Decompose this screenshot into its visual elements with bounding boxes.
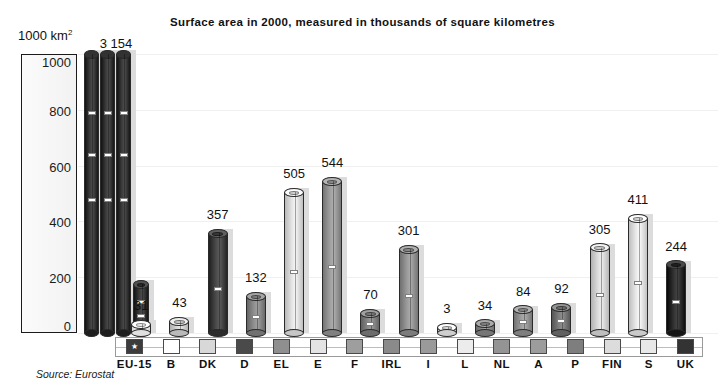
bar-highlight (677, 265, 678, 333)
value-label-EL: 132 (237, 270, 275, 285)
bar-group-E[interactable] (275, 54, 313, 333)
bar-cylinder (208, 233, 228, 333)
bar-A[interactable] (513, 310, 533, 333)
legend-item-EU-15[interactable]: ★EU-15 (116, 337, 153, 354)
y-axis-tick-1000: 1000 (42, 55, 71, 70)
bar-marker (120, 111, 128, 115)
bar-group-F[interactable] (313, 54, 351, 333)
bar-group-EL[interactable] (237, 54, 275, 333)
bar-group-DK[interactable] (160, 54, 198, 333)
bar-cylinder (437, 327, 457, 333)
legend-swatch-A (530, 339, 547, 354)
bar-base-ellipse (360, 329, 380, 337)
legend-item-FIN[interactable]: FIN (594, 337, 631, 354)
bar-marker (214, 287, 222, 291)
bar-L[interactable] (437, 327, 457, 333)
bar-I[interactable] (399, 249, 419, 333)
bar-top-ellipse-inner (403, 248, 413, 252)
bar-cylinder (551, 307, 571, 333)
bar-cylinder (246, 296, 266, 333)
bar-DK[interactable] (169, 321, 189, 333)
value-label-D: 357 (199, 207, 237, 222)
bar-top-ellipse-inner (327, 180, 337, 184)
bar-group-L[interactable] (428, 54, 466, 333)
bar-marker (88, 153, 96, 157)
bar-UK[interactable] (666, 265, 686, 333)
chart-root: Surface area in 2000, measured in thousa… (0, 0, 725, 387)
legend-swatch-D (236, 339, 253, 354)
legend-item-F[interactable]: F (337, 337, 374, 354)
value-label-FIN: 305 (581, 222, 619, 237)
legend-item-DK[interactable]: DK (190, 337, 227, 354)
bar-P[interactable] (551, 307, 571, 333)
legend-item-S[interactable]: S (631, 337, 668, 354)
bar-group-FIN[interactable] (581, 54, 619, 333)
legend-item-P[interactable]: P (557, 337, 594, 354)
legend-label-I: I (427, 358, 431, 370)
bar-base-ellipse (208, 329, 228, 337)
bar-top-ellipse-inner (633, 217, 643, 221)
legend-item-L[interactable]: L (447, 337, 484, 354)
bar-FIN[interactable] (590, 248, 610, 333)
legend-swatch-F (346, 339, 363, 354)
value-label-E: 505 (275, 166, 313, 181)
bar-highlight (410, 249, 411, 333)
bar-group-EU-15[interactable] (84, 54, 122, 333)
bar-marker (290, 270, 298, 274)
bar-highlight (333, 181, 334, 333)
bar-IRL[interactable] (360, 313, 380, 333)
bar-S[interactable] (628, 218, 648, 333)
legend-label-NL: NL (494, 358, 510, 370)
bar-NL[interactable] (475, 324, 495, 333)
bar-marker (88, 198, 96, 202)
legend-item-A[interactable]: A (520, 337, 557, 354)
bar-body (590, 248, 610, 333)
bar-group-D[interactable] (199, 54, 237, 333)
bar-cylinder (590, 248, 610, 333)
bar-EU-15-seg1[interactable] (84, 54, 99, 333)
bar-marker (120, 153, 128, 157)
bar-E[interactable] (284, 192, 304, 333)
bar-EU-15-seg2[interactable] (100, 54, 115, 333)
bar-top-ellipse-inner (556, 306, 566, 310)
bar-cylinder (84, 54, 99, 333)
legend-label-FIN: FIN (602, 358, 622, 370)
legend-item-E[interactable]: E (300, 337, 337, 354)
bar-group-NL[interactable] (466, 54, 504, 333)
legend-item-B[interactable]: B (153, 337, 190, 354)
bar-base-ellipse (666, 329, 686, 337)
bar-group-I[interactable] (390, 54, 428, 333)
legend-item-NL[interactable]: NL (484, 337, 521, 354)
value-label-A: 84 (504, 284, 542, 299)
bar-marker (252, 315, 260, 319)
bar-EL[interactable] (246, 296, 266, 333)
bar-marker (634, 281, 642, 285)
bar-B[interactable] (131, 324, 151, 333)
value-label-NL: 34 (466, 298, 504, 313)
legend-item-EL[interactable]: EL (263, 337, 300, 354)
y-axis-unit-exponent: 2 (68, 28, 72, 37)
bar-highlight (639, 218, 640, 333)
value-label-I: 301 (390, 223, 428, 238)
legend-label-UK: UK (677, 358, 695, 370)
legend-item-IRL[interactable]: IRL (373, 337, 410, 354)
legend-label-A: A (534, 358, 543, 370)
bar-F[interactable] (322, 181, 342, 333)
bar-cylinder (322, 181, 342, 333)
value-label-EU-15: 3 154 (88, 36, 144, 51)
bar-group-UK[interactable] (657, 54, 695, 333)
legend-item-D[interactable]: D (226, 337, 263, 354)
legend-item-UK[interactable]: UK (667, 337, 704, 354)
bar-marker (104, 198, 112, 202)
legend-swatch-EL (273, 339, 290, 354)
legend-item-I[interactable]: I (410, 337, 447, 354)
bar-D[interactable] (208, 233, 228, 333)
y-axis-box: 02004006008001000 (21, 54, 77, 333)
legend-label-D: D (240, 358, 249, 370)
legend-swatch-UK (677, 339, 694, 354)
legend-label-EL: EL (274, 358, 290, 370)
bar-marker (120, 198, 128, 202)
bar-cylinder (628, 218, 648, 333)
bar-base-ellipse (100, 329, 115, 337)
bar-EU-15-seg3[interactable] (116, 54, 131, 333)
